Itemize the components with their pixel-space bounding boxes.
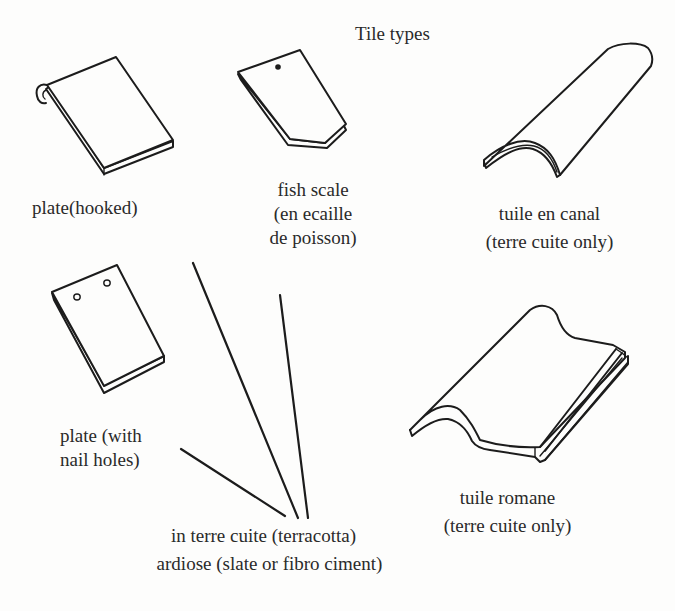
label-line: tuile en canal xyxy=(462,202,637,226)
plate-nail-holes-illustration xyxy=(52,265,164,393)
label-line: de poisson) xyxy=(258,226,368,250)
label-plate-nail-holes: plate (with nail holes) xyxy=(60,424,142,472)
label-fish-scale: fish scale (en ecaille de poisson) xyxy=(258,178,368,250)
material-note-line: ardiose (slate or fibro ciment) xyxy=(102,552,437,576)
label-line: tuile romane xyxy=(420,486,595,510)
tile-types-diagram: Tile types plate(hooked) fish scale (en … xyxy=(0,0,675,611)
label-tuile-en-canal: tuile en canal (terre cuite only) xyxy=(462,202,637,254)
leader-line-plate-hooked xyxy=(193,263,298,518)
label-line: plate (with xyxy=(60,424,142,448)
plate-hooked-illustration xyxy=(37,57,173,175)
tuile-en-canal-illustration xyxy=(484,44,652,177)
label-line: (en ecaille xyxy=(258,202,368,226)
label-line: (terre cuite only) xyxy=(420,514,595,538)
material-note: in terre cuite (terracotta) ardiose (sla… xyxy=(102,524,437,576)
material-note-line: in terre cuite (terracotta) xyxy=(102,524,437,548)
label-plate-hooked: plate(hooked) xyxy=(32,196,138,220)
label-line: fish scale xyxy=(258,178,368,202)
tuile-romane-illustration xyxy=(410,306,628,462)
diagram-title: Tile types xyxy=(355,22,430,46)
label-line: (terre cuite only) xyxy=(462,230,637,254)
label-tuile-romane: tuile romane (terre cuite only) xyxy=(420,486,595,538)
label-line: nail holes) xyxy=(60,448,142,472)
label-line: plate(hooked) xyxy=(32,196,138,220)
leader-line-plate-nail-holes xyxy=(181,449,285,516)
fish-scale-illustration xyxy=(238,50,346,148)
